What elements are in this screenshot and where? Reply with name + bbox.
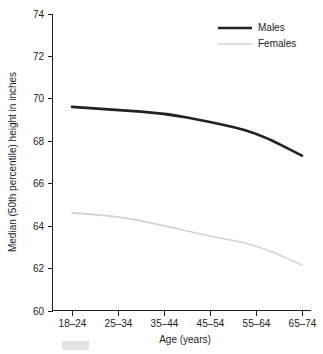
- chart-legend: MalesFemales: [218, 22, 296, 49]
- x-tick-label: 45–54: [197, 318, 225, 329]
- y-tick-label: 66: [33, 178, 45, 189]
- y-tick-label: 62: [33, 263, 45, 274]
- y-tick-label: 74: [33, 9, 45, 20]
- data-series-group: [72, 107, 302, 265]
- x-axis-ticks: 18–2425–3435–4445–5455–6465–74: [59, 311, 317, 330]
- y-axis-title: Median (50th percentile) height in inche…: [7, 72, 18, 252]
- y-tick-label: 70: [33, 93, 45, 104]
- y-tick-label: 68: [33, 136, 45, 147]
- x-tick-label: 35–44: [151, 318, 179, 329]
- x-tick-label: 55–64: [243, 318, 271, 329]
- y-tick-label: 64: [33, 221, 45, 232]
- axis-lines: [53, 14, 311, 311]
- y-tick-label: 60: [33, 306, 45, 317]
- x-axis-title: Age (years): [159, 334, 211, 345]
- x-tick-label: 65–74: [289, 318, 317, 329]
- line-chart: 6062646668707274 18–2425–3435–4445–5455–…: [0, 0, 323, 354]
- chart-figure: 6062646668707274 18–2425–3435–4445–5455–…: [0, 0, 323, 354]
- legend-label-males: Males: [258, 22, 285, 33]
- watermark-artifact: [62, 341, 89, 350]
- series-line-females: [72, 213, 302, 265]
- y-axis-ticks: 6062646668707274: [33, 9, 53, 317]
- series-line-males: [72, 107, 302, 156]
- legend-label-females: Females: [258, 38, 296, 49]
- x-tick-label: 25–34: [105, 318, 133, 329]
- x-tick-label: 18–24: [59, 318, 87, 329]
- y-tick-label: 72: [33, 51, 45, 62]
